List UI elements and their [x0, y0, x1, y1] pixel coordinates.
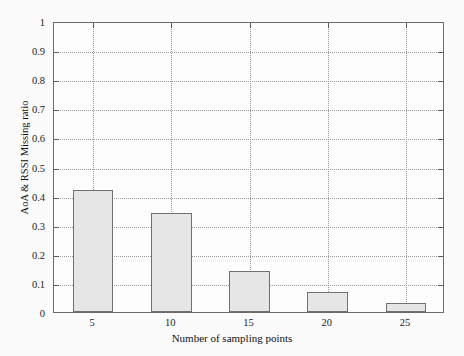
x-tick-label: 20 [321, 317, 332, 328]
y-tick-mark [54, 227, 59, 228]
y-tick-label: 0.9 [32, 46, 45, 57]
plot-area [53, 22, 444, 313]
gridline-vertical [250, 23, 251, 312]
y-tick-mark [54, 110, 59, 111]
x-tick-mark-top [328, 23, 329, 28]
y-tick-mark [54, 169, 59, 170]
y-tick-mark [54, 52, 59, 53]
y-tick-mark-right [438, 256, 443, 257]
gridline-horizontal [54, 81, 443, 82]
y-tick-label: 0 [40, 308, 45, 319]
y-tick-label: 1 [40, 17, 45, 28]
gridline-horizontal [54, 139, 443, 140]
y-tick-label: 0.1 [32, 278, 45, 289]
y-tick-mark [54, 81, 59, 82]
gridline-vertical [328, 23, 329, 312]
bar [73, 190, 114, 312]
x-tick-mark-top [250, 23, 251, 28]
y-tick-mark-right [438, 169, 443, 170]
bar [229, 271, 270, 312]
y-tick-label: 0.6 [32, 133, 45, 144]
y-tick-mark-right [438, 227, 443, 228]
chart-figure: 00.10.20.30.40.50.60.70.80.91 510152025 … [0, 0, 464, 356]
gridline-horizontal [54, 52, 443, 53]
y-tick-mark-right [438, 285, 443, 286]
y-tick-mark-right [438, 81, 443, 82]
x-tick-label: 10 [165, 317, 176, 328]
y-tick-mark [54, 285, 59, 286]
y-tick-label: 0.2 [32, 249, 45, 260]
y-tick-label: 0.7 [32, 104, 45, 115]
bar [307, 292, 348, 312]
x-tick-label: 25 [400, 317, 411, 328]
bar [386, 303, 427, 312]
bar [151, 213, 192, 312]
y-tick-mark-right [438, 198, 443, 199]
gridline-horizontal [54, 169, 443, 170]
x-tick-label: 5 [89, 317, 94, 328]
y-tick-mark [54, 256, 59, 257]
y-tick-label: 0.8 [32, 75, 45, 86]
y-tick-mark-right [438, 110, 443, 111]
gridline-vertical [406, 23, 407, 312]
y-tick-label: 0.4 [32, 191, 45, 202]
y-axis-label: AoA & RSSI Missing ratio [19, 58, 30, 258]
x-axis-label: Number of sampling points [0, 332, 464, 344]
y-tick-label: 0.3 [32, 220, 45, 231]
y-tick-mark-right [438, 52, 443, 53]
y-tick-label: 0.5 [32, 162, 45, 173]
y-tick-mark-right [438, 139, 443, 140]
x-tick-mark-top [171, 23, 172, 28]
x-tick-label: 15 [243, 317, 254, 328]
x-tick-mark-top [406, 23, 407, 28]
y-tick-mark [54, 198, 59, 199]
gridline-horizontal [54, 110, 443, 111]
y-tick-mark [54, 139, 59, 140]
x-tick-mark-top [93, 23, 94, 28]
